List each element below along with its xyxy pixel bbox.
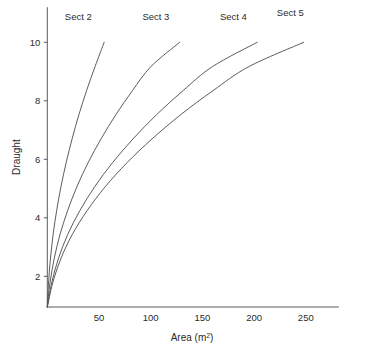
series-curves-group (47, 42, 303, 307)
x-tick-label: 150 (194, 312, 210, 323)
x-tick-label: 250 (298, 312, 314, 323)
series-label-sect-5: Sect 5 (277, 7, 304, 18)
series-labels-group: Sect 2Sect 3Sect 4Sect 5 (65, 7, 304, 22)
x-axis-title: Area (m2) (171, 332, 214, 344)
y-axis-title: Draught (11, 139, 22, 175)
chart-figure: 246810 50100150200250 Sect 2Sect 3Sect 4… (0, 0, 369, 355)
x-axis-title-close: ) (210, 332, 213, 343)
x-tick-group: 50100150200250 (94, 312, 314, 323)
y-tick-label: 10 (30, 37, 41, 48)
y-tick-label: 8 (35, 95, 40, 106)
y-tick-label: 6 (35, 154, 40, 165)
y-tick-label: 4 (35, 212, 40, 223)
series-curve-sect-5 (47, 42, 303, 307)
series-label-sect-3: Sect 3 (142, 11, 169, 22)
x-tick-label: 200 (246, 312, 262, 323)
y-tick-group: 246810 (30, 37, 48, 282)
series-curve-sect-3 (47, 42, 179, 307)
series-label-sect-2: Sect 2 (65, 11, 92, 22)
series-label-sect-4: Sect 4 (220, 11, 247, 22)
x-tick-label: 50 (94, 312, 105, 323)
x-axis-title-base: Area (m (171, 332, 207, 343)
chart-canvas: 246810 50100150200250 Sect 2Sect 3Sect 4… (0, 0, 369, 355)
x-tick-label: 100 (143, 312, 159, 323)
y-tick-label: 2 (35, 271, 40, 282)
